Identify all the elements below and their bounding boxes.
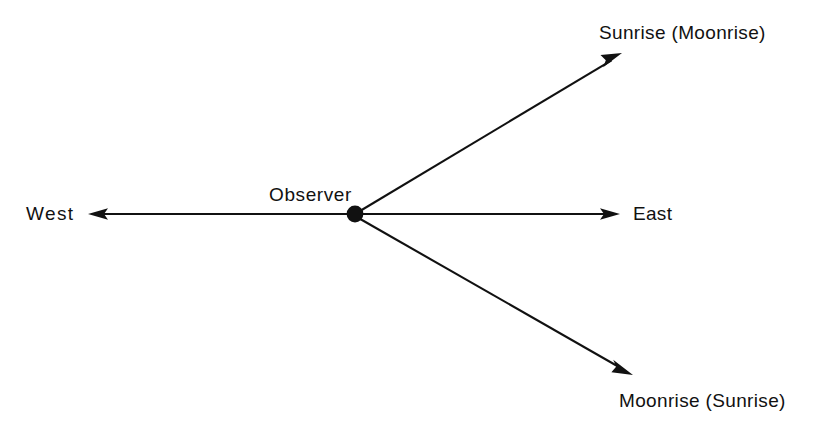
ray-moonrise-sunrise-line (355, 216, 622, 369)
diagram-vector-layer (0, 0, 832, 429)
label-sunrise-moonrise: Sunrise (Moonrise) (599, 23, 766, 42)
ray-moonrise-sunrise-arrowhead-icon (611, 360, 633, 375)
ray-west (88, 208, 355, 220)
ray-sunrise-moonrise-line (355, 60, 612, 214)
label-east: East (633, 204, 672, 223)
ray-moonrise-sunrise (355, 216, 633, 375)
label-observer: Observer (269, 185, 352, 204)
ray-sunrise-moonrise (355, 53, 622, 214)
label-west: West (26, 204, 75, 223)
observer-dot-marker (347, 206, 364, 223)
diagram-canvas: West East Sunrise (Moonrise) Moonrise (S… (0, 0, 832, 429)
label-moonrise-sunrise: Moonrise (Sunrise) (619, 391, 786, 410)
ray-east (355, 208, 620, 220)
